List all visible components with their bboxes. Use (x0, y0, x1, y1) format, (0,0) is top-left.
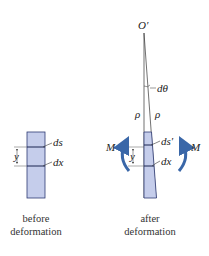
dtheta-label: dθ (157, 82, 169, 94)
moment-label-left: M (105, 141, 116, 153)
origin-label: O′ (138, 19, 149, 31)
beam-deformation-diagram: ds dx y before deformation O′ dθ ρ ρ ds′… (0, 0, 209, 256)
deformed-beam-segment (144, 132, 157, 198)
after-deformation-element: O′ dθ ρ ρ ds′ dx y M M after deformation (105, 19, 201, 237)
y-label-after: y (129, 150, 135, 162)
moment-arrow-right (179, 144, 186, 171)
y-label: y (13, 150, 19, 162)
after-caption-line1: after (140, 213, 160, 224)
before-deformation-element: ds dx y before deformation (10, 132, 63, 237)
moment-label-right: M (190, 141, 201, 153)
before-caption-line2: deformation (10, 226, 62, 237)
dx-label: dx (53, 156, 64, 168)
before-caption-line1: before (23, 213, 50, 224)
moment-arrow-left (122, 144, 129, 171)
ds-label: ds (53, 136, 63, 148)
ds-prime-label: ds′ (161, 135, 174, 147)
rho-right-label: ρ (154, 108, 160, 120)
after-caption-line2: deformation (124, 226, 176, 237)
dx-label-after: dx (161, 155, 172, 167)
rho-left-label: ρ (134, 108, 140, 120)
undeformed-beam-segment (27, 132, 45, 198)
dtheta-arc (144, 85, 150, 87)
